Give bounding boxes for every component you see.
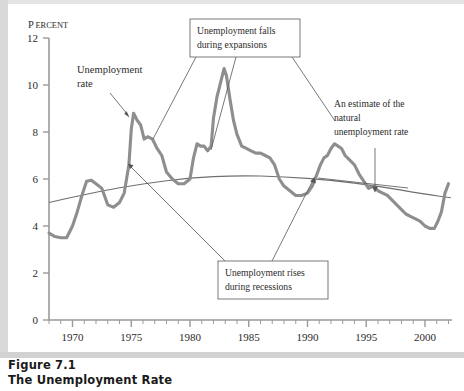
y-tick-label: 0 xyxy=(33,314,39,326)
unemployment-rate-line xyxy=(49,69,448,238)
annotation-line-2: during recessions xyxy=(225,281,292,292)
annotation-unemployment-rate-label: Unemployment rate xyxy=(77,64,142,89)
arrowhead-unemployment-rate xyxy=(124,111,129,117)
annotation-line-1: Unemployment falls xyxy=(197,25,276,36)
unemployment-rate-chart: 121086420 1970197519801985199019952000 P… xyxy=(0,0,464,352)
y-axis-tick-labels: 121086420 xyxy=(27,32,39,326)
y-tick-label: 4 xyxy=(33,220,39,232)
annotation-line-1: Unemployment rises xyxy=(225,267,305,278)
x-axis-major-ticks xyxy=(72,320,424,327)
annotation-recessions-note: Unemployment rises during recessions xyxy=(218,261,328,299)
x-tick-label: 1975 xyxy=(120,331,143,343)
x-tick-label: 1980 xyxy=(179,331,202,343)
y-tick-label: 10 xyxy=(27,79,39,91)
y-tick-label: 8 xyxy=(33,126,39,138)
annotation-line-1: Unemployment xyxy=(77,64,142,75)
x-tick-label: 1985 xyxy=(238,331,261,343)
x-tick-label: 1990 xyxy=(296,331,319,343)
x-tick-label: 2000 xyxy=(414,331,437,343)
annotation-natural-rate-note: An estimate of the natural unemployment … xyxy=(334,98,408,137)
leader-recessions-left xyxy=(130,166,225,261)
y-tick-label: 2 xyxy=(33,267,39,279)
annotation-line-2: rate xyxy=(77,78,93,89)
annotation-line-2: during expansions xyxy=(197,39,267,50)
y-tick-label: 12 xyxy=(27,32,38,44)
x-tick-label: 1995 xyxy=(355,331,378,343)
y-axis-title-first-letter: P xyxy=(28,19,34,30)
y-axis-title-rest: ERCENT xyxy=(36,21,69,30)
figure-container: 121086420 1970197519801985199019952000 P… xyxy=(0,0,464,391)
y-tick-label: 6 xyxy=(33,173,39,185)
figure-title: The Unemployment Rate xyxy=(8,373,448,388)
annotation-expansions-note: Unemployment falls during expansions xyxy=(190,19,300,57)
leader-unemployment-rate xyxy=(110,93,128,115)
annotation-line-1: An estimate of the xyxy=(334,98,405,109)
figure-number: Figure 7.1 xyxy=(8,358,448,373)
y-axis-ticks xyxy=(43,38,49,320)
annotation-line-3: unemployment rate xyxy=(334,126,408,137)
leader-expansions-right xyxy=(292,57,335,121)
leader-expansions-left xyxy=(153,57,196,139)
annotation-line-2: natural xyxy=(334,112,361,123)
annotation-leader-lines xyxy=(110,57,408,261)
figure-caption: Figure 7.1 The Unemployment Rate xyxy=(8,358,448,387)
x-axis-tick-labels: 1970197519801985199019952000 xyxy=(61,331,436,343)
x-tick-label: 1970 xyxy=(61,331,84,343)
